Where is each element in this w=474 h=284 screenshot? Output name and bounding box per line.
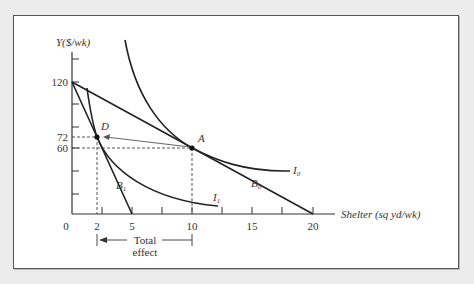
xtick-2: 2 [94,220,100,232]
ytick-120: 120 [52,76,69,88]
i1-label: I1 [212,191,220,205]
i0-label: I0 [292,164,301,178]
x-axis-label: Shelter (sq yd/wk) [341,208,421,221]
xtick-5: 5 [129,220,135,232]
b1-label: B1 [116,179,126,193]
xtick-0: 0 [63,220,69,232]
total-effect-label-2: effect [133,246,158,258]
xtick-20: 20 [308,220,320,232]
point-d [94,134,99,139]
x-ticks [102,207,313,214]
budget-indifference-chart: A D B0 B1 I0 I1 Y($/wk) Shelter (sq yd/w… [0,0,474,284]
indifference-curve-i1 [87,88,218,206]
ytick-60: 60 [57,142,69,154]
total-effect-label-1: Total [134,234,156,246]
point-a-label: A [197,132,205,144]
point-d-label: D [100,120,109,132]
indifference-curve-i0 [125,40,290,171]
substitution-arrow [103,134,190,147]
xtick-15: 15 [247,220,259,232]
point-a [189,145,194,150]
arrow-left-icon [99,237,107,243]
y-ticks [72,59,79,194]
y-axis-label: Y($/wk) [56,36,91,49]
b0-label: B0 [251,177,262,191]
guide-lines [72,137,192,214]
xtick-10: 10 [187,220,199,232]
